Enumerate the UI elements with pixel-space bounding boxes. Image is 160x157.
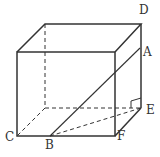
label-E: E — [146, 104, 155, 116]
label-F: F — [117, 130, 125, 142]
front-face — [17, 52, 115, 136]
top-face-edges — [17, 24, 141, 52]
label-B: B — [45, 139, 54, 151]
label-C: C — [5, 131, 14, 143]
cuboid-figure — [0, 0, 160, 157]
hidden-edge-left-bottom — [17, 108, 45, 136]
label-A: A — [143, 46, 152, 58]
cuboid-diagram: D A E F B C — [0, 0, 160, 157]
right-angle-marker — [131, 98, 141, 108]
label-D: D — [139, 4, 149, 16]
